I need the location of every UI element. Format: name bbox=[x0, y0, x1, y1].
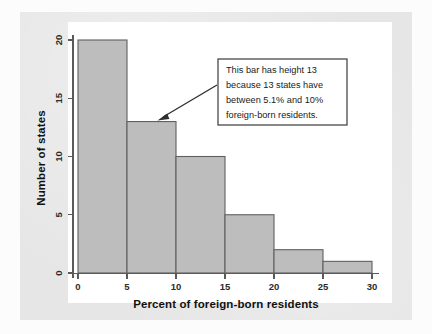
y-tick-label-15: 15 bbox=[53, 92, 64, 103]
y-axis: 0 5 10 15 20 Number of states bbox=[35, 35, 73, 278]
x-tick-label-20: 20 bbox=[269, 281, 280, 292]
callout-line-1: This bar has height 13 bbox=[226, 65, 317, 75]
callout-arrow-head bbox=[158, 114, 170, 121]
y-tick-label-5: 5 bbox=[53, 211, 64, 217]
callout-line-2: because 13 states have bbox=[226, 80, 323, 90]
y-tick-label-0: 0 bbox=[53, 270, 64, 275]
x-axis: 0 5 10 15 20 25 30 Percent of foreign-bo… bbox=[73, 274, 379, 310]
bar-20-25[interactable] bbox=[274, 250, 323, 273]
y-tick-label-20: 20 bbox=[53, 35, 64, 46]
bar-10-15[interactable] bbox=[176, 157, 225, 274]
x-tick-label-10: 10 bbox=[171, 281, 182, 292]
histogram-chart: 0 5 10 15 20 25 30 Percent of foreign-bo… bbox=[0, 0, 432, 334]
callout-box: This bar has height 13 because 13 states… bbox=[218, 59, 347, 125]
x-tick-label-5: 5 bbox=[124, 281, 130, 292]
callout-line-4: foreign-born residents. bbox=[226, 110, 318, 120]
x-tick-label-0: 0 bbox=[75, 281, 80, 292]
figure-root: 0 5 10 15 20 25 30 Percent of foreign-bo… bbox=[0, 0, 432, 334]
bar-15-20[interactable] bbox=[225, 215, 274, 273]
x-tick-label-25: 25 bbox=[318, 281, 329, 292]
bar-5-10[interactable] bbox=[127, 122, 176, 273]
x-axis-title: Percent of foreign-born residents bbox=[133, 298, 318, 310]
x-tick-label-30: 30 bbox=[367, 281, 378, 292]
callout-arrow-line bbox=[163, 85, 217, 117]
x-tick-label-15: 15 bbox=[220, 281, 231, 292]
y-axis-title: Number of states bbox=[35, 110, 47, 206]
callout-arrow bbox=[158, 85, 218, 121]
y-tick-label-10: 10 bbox=[53, 151, 64, 162]
callout-line-3: between 5.1% and 10% bbox=[226, 95, 323, 105]
bar-25-30[interactable] bbox=[323, 261, 372, 273]
bar-0-5[interactable] bbox=[78, 40, 127, 273]
